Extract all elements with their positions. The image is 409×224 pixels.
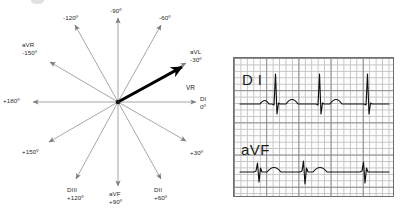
axis-label-minus120: -120º (63, 14, 78, 22)
axis-ray-minus120 (75, 25, 118, 102)
ecg-strip-panel: D I aVF (233, 57, 394, 197)
axis-label-dii: DII +60º (154, 186, 167, 203)
axis-rays (33, 18, 196, 186)
axis-label-di: DI 0º (200, 95, 206, 111)
ecg-trace-avf (240, 161, 389, 184)
axis-label-avl: aVL -30º (190, 48, 202, 65)
axis-ray-diii (76, 102, 118, 179)
ecg-lead-label-avf: aVF (241, 142, 270, 157)
axis-label-minus90: -90º (110, 7, 122, 15)
axis-label-diii: DIII +120º (67, 186, 84, 203)
axis-label-minus60: -60º (159, 14, 171, 22)
axis-ray-plus150 (49, 102, 118, 142)
axis-label-avr: aVR -150º (22, 41, 37, 58)
axis-label-avf: aVF +90º (109, 190, 122, 207)
ecg-lead-label-di: D I (242, 72, 262, 87)
axis-ray-avr (50, 62, 118, 102)
hexaxial-reference-system: DI 0º +30º DII +60º aVF +90º DIII +120º … (0, 0, 232, 224)
axis-ray-plus30 (118, 102, 186, 141)
ecg-axis-figure: DI 0º +30º DII +60º aVF +90º DIII +120º … (0, 0, 409, 224)
mean-vector-label: VR (186, 84, 195, 91)
axis-label-plus150: +150º (22, 148, 39, 156)
axis-ray-dii (118, 102, 161, 179)
axis-label-plus30: +30º (190, 149, 203, 157)
axis-origin (116, 100, 121, 105)
axis-label-plus180: +180º (3, 97, 20, 105)
